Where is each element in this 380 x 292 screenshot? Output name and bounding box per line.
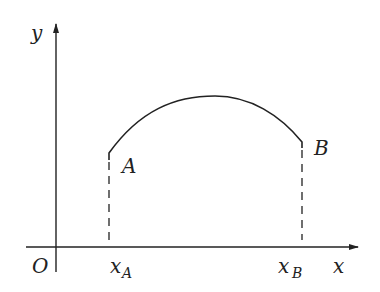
origin-label: O <box>32 254 48 278</box>
diagram-canvas: y x O A B x A x B <box>0 0 380 292</box>
svg-text:x: x <box>278 254 289 278</box>
y-axis-label: y <box>30 21 43 45</box>
tick-label-xa: x A <box>110 254 132 281</box>
curve-ab <box>109 96 302 160</box>
x-axis-label: x <box>333 254 344 278</box>
tick-label-xb: x B <box>278 254 302 281</box>
svg-text:B: B <box>291 265 302 281</box>
point-a-label: A <box>120 154 136 178</box>
svg-text:x: x <box>110 254 121 278</box>
svg-text:A: A <box>120 265 132 281</box>
point-b-label: B <box>313 136 329 160</box>
